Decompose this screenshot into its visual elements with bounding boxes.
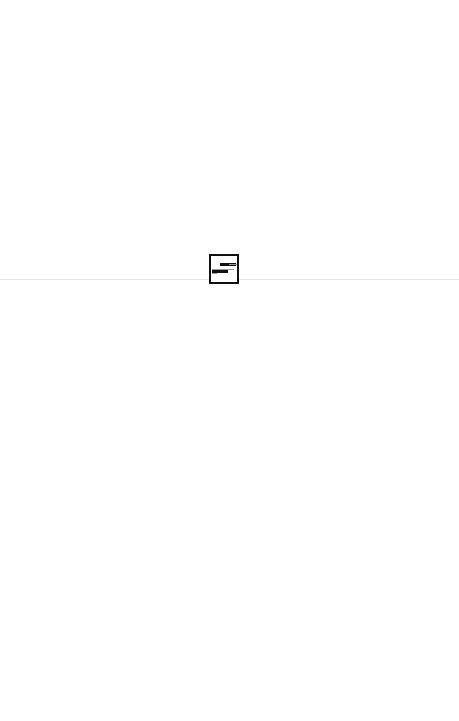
app-logo: S bbox=[209, 254, 239, 284]
s-logo-icon bbox=[209, 254, 239, 284]
splash-screen: S bbox=[0, 0, 459, 721]
